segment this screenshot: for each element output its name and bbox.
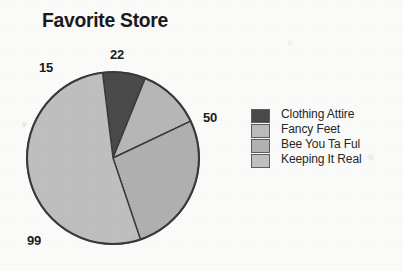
pie-data-label-keeping-it-real: 99: [27, 233, 41, 248]
legend-item-label: Bee You Ta Ful: [281, 137, 362, 152]
legend-item-label: Fancy Feet: [281, 122, 362, 137]
chart-legend: Clothing AttireFancy FeetBee You Ta FulK…: [251, 107, 362, 168]
chart-title: Favorite Store: [42, 8, 168, 32]
legend-swatch: [251, 124, 270, 138]
legend-item-label: Clothing Attire: [281, 107, 362, 122]
pie-data-label-bee-you-ta-ful: 50: [203, 110, 217, 125]
pie-chart: [0, 0, 250, 271]
legend-swatch: [251, 139, 270, 153]
legend-label-column: Clothing AttireFancy FeetBee You Ta FulK…: [281, 107, 362, 168]
pie-data-label-fancy-feet: 22: [110, 47, 124, 62]
pie-chart-svg: [0, 0, 250, 271]
legend-swatch: [251, 109, 270, 123]
pie-data-label-clothing-attire: 15: [39, 60, 53, 75]
legend-swatch-column: [251, 107, 270, 168]
legend-item-label: Keeping It Real: [281, 152, 362, 167]
legend-swatch: [251, 154, 270, 168]
pie-slice-group: [27, 72, 199, 244]
